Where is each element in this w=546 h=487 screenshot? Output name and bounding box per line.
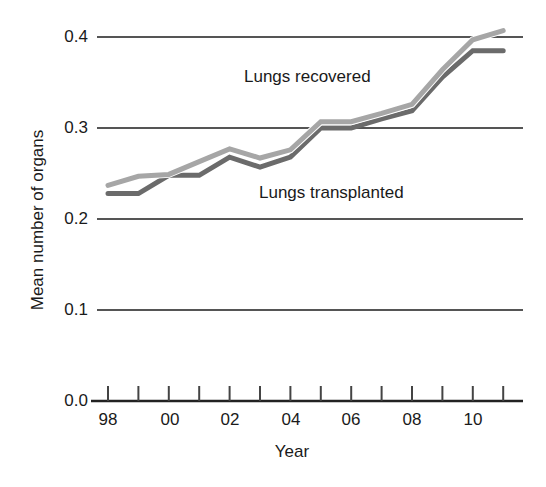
x-tick-10: 10	[453, 410, 493, 430]
series-lines	[108, 31, 503, 194]
x-axis	[91, 386, 523, 401]
series-lungs-recovered	[108, 31, 503, 186]
annotation-lungs-recovered: Lungs recovered	[244, 67, 371, 87]
annotation-lungs-transplanted: Lungs transplanted	[259, 183, 404, 203]
y-tick-0-0: 0.0	[38, 391, 88, 411]
x-tick-02: 02	[210, 410, 250, 430]
x-tick-98: 98	[88, 410, 128, 430]
x-tick-08: 08	[392, 410, 432, 430]
y-tick-0-2: 0.2	[38, 209, 88, 229]
x-axis-label: Year	[275, 442, 309, 462]
x-tick-00: 00	[150, 410, 190, 430]
y-tick-0-3: 0.3	[38, 118, 88, 138]
x-tick-04: 04	[271, 410, 311, 430]
x-tick-06: 06	[331, 410, 371, 430]
y-tick-0-1: 0.1	[38, 300, 88, 320]
y-tick-0-4: 0.4	[38, 27, 88, 47]
